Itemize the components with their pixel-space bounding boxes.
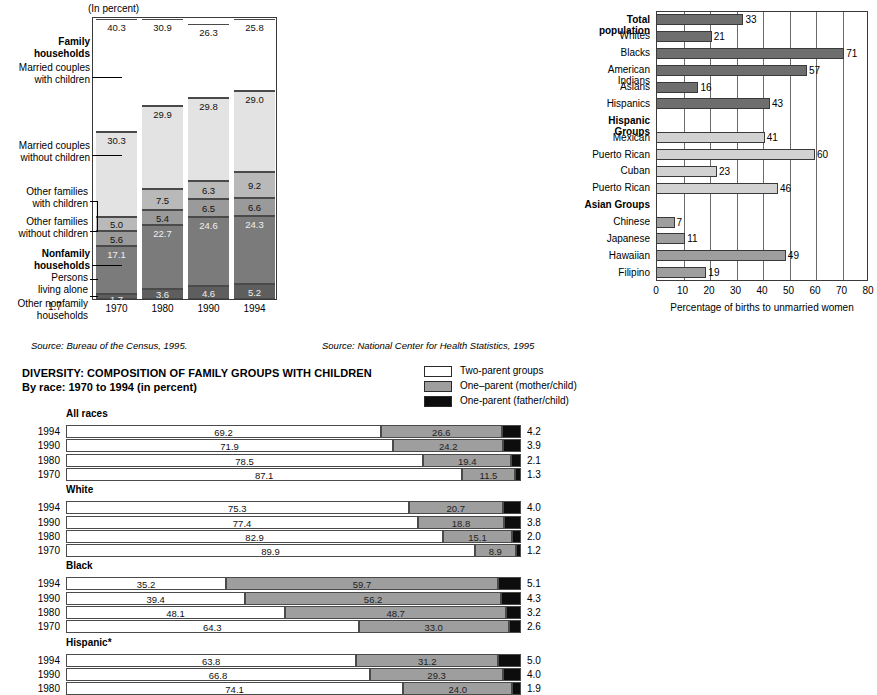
- label-line: Other nonfamily: [0, 298, 88, 310]
- segment-value: 29.3: [371, 670, 502, 681]
- table-row: 71.924.2: [66, 439, 521, 452]
- segment-value: 5.4: [142, 214, 183, 224]
- bottom-row-year: 1994: [22, 655, 60, 666]
- bottom-stack-segment: 39.4: [66, 592, 245, 605]
- right-chart-row-label: Puerto Rican: [577, 182, 653, 193]
- x-tick-30: 30: [727, 285, 745, 296]
- right-chart-bar-value: 11: [685, 233, 697, 244]
- segment-value: 48.7: [286, 608, 506, 619]
- right-chart-bar: [656, 233, 685, 244]
- right-chart-bar-value: 60: [815, 149, 828, 160]
- left-chart-year-label-1994: 1994: [234, 303, 275, 314]
- segment-value: 75.3: [67, 503, 408, 514]
- bottom-stack-segment: [502, 425, 521, 438]
- household-composition-chart: (In percent) 1.717.15.65.030.340.33.622.…: [0, 0, 290, 332]
- bottom-row-father-value: 2.0: [527, 531, 541, 542]
- stack-segment: 17.1: [96, 246, 137, 294]
- right-chart-bar-value: 16: [698, 82, 711, 93]
- x-tick-50: 50: [780, 285, 798, 296]
- label-line: with children: [0, 198, 88, 210]
- bottom-row-father-value: 3.9: [527, 440, 541, 451]
- bottom-row-year: 1994: [22, 578, 60, 589]
- source-right: Source: National Center for Health Stati…: [322, 340, 534, 351]
- right-chart-row-label: Mexican: [577, 132, 653, 143]
- segment-value: 31.2: [357, 656, 497, 667]
- right-chart-bar-value: 57: [807, 65, 820, 76]
- label-line: Other families: [0, 186, 88, 198]
- family-groups-composition-chart: DIVERSITY: COMPOSITION OF FAMILY GROUPS …: [0, 362, 579, 665]
- bottom-row-father-value: 4.0: [527, 669, 541, 680]
- x-tick-70: 70: [833, 285, 851, 296]
- right-chart-row-label: Japanese: [577, 233, 653, 244]
- segment-value: 25.8: [234, 23, 275, 33]
- bottom-stack-segment: [498, 654, 521, 667]
- segment-value: 77.4: [67, 518, 417, 529]
- right-chart-row-label: Cuban: [577, 165, 653, 176]
- segment-value: 6.6: [234, 203, 275, 213]
- stack-segment: 6.6: [234, 198, 275, 216]
- bottom-stack-segment: 33.0: [359, 620, 509, 633]
- left-chart-label-5: Nonfamilyhouseholds: [0, 248, 90, 271]
- bottom-stack-segment: [501, 592, 521, 605]
- bottom-row-father-value: 4.0: [527, 502, 541, 513]
- stack-segment: 6.3: [188, 181, 229, 199]
- right-chart-bar-value: 23: [717, 166, 730, 177]
- bottom-row-year: 1994: [22, 502, 60, 513]
- right-chart-bar-value: 21: [712, 31, 725, 42]
- segment-value: 3.6: [142, 290, 183, 300]
- bottom-title-line1: DIVERSITY: COMPOSITION OF FAMILY GROUPS …: [22, 367, 372, 379]
- left-chart-column-1980: 3.622.75.47.529.930.9: [142, 19, 183, 299]
- legend-swatch: [424, 396, 452, 407]
- stack-segment: 25.8: [234, 19, 275, 91]
- table-row: 69.226.6: [66, 425, 521, 438]
- segment-value: 22.7: [142, 229, 183, 239]
- right-chart-bar: [656, 132, 765, 143]
- stack-segment: 29.8: [188, 98, 229, 181]
- left-chart-label-2: Married coupleswithout children: [0, 140, 90, 163]
- bottom-stack-segment: [503, 668, 521, 681]
- x-tick-40: 40: [753, 285, 771, 296]
- bottom-row-father-value: 2.6: [527, 621, 541, 632]
- bottom-stack-segment: 24.0: [403, 682, 512, 695]
- segment-value: 89.9: [67, 546, 474, 557]
- table-row: 48.148.7: [66, 606, 521, 619]
- stack-segment: 30.3: [96, 132, 137, 217]
- segment-value: 11.5: [463, 470, 513, 481]
- segment-value: 4.6: [188, 289, 229, 299]
- segment-value: 19.4: [424, 456, 510, 467]
- leader-line: [92, 77, 122, 78]
- bottom-group-heading: All races: [66, 408, 108, 419]
- table-row: 35.259.7: [66, 577, 521, 590]
- bottom-stack-segment: 35.2: [66, 577, 226, 590]
- left-chart-year-label-1990: 1990: [188, 303, 229, 314]
- bottom-row-father-value: 5.1: [527, 578, 541, 589]
- label-line: Family: [0, 36, 90, 48]
- bottom-stack-segment: 69.2: [66, 425, 381, 438]
- segment-value: 78.5: [67, 456, 422, 467]
- table-row: 82.915.1: [66, 530, 521, 543]
- right-chart-bar: [656, 149, 815, 160]
- segment-value: 24.3: [234, 220, 275, 230]
- bottom-group-heading: Hispanic*: [66, 637, 112, 648]
- segment-value: 71.9: [67, 441, 392, 452]
- right-chart-row-label: Hawaiian: [577, 250, 653, 261]
- leader-line: [90, 231, 98, 232]
- table-row: 78.519.4: [66, 454, 521, 467]
- bottom-stack-segment: 29.3: [370, 668, 503, 681]
- segment-value: 24.6: [188, 221, 229, 231]
- bottom-stack-segment: 77.4: [66, 516, 418, 529]
- stack-segment: 24.3: [234, 216, 275, 284]
- left-chart-label-6: Personsliving alone: [0, 272, 88, 295]
- segment-value: 74.1: [67, 684, 402, 695]
- bottom-row-father-value: 2.1: [527, 455, 541, 466]
- bottom-stack-segment: [503, 501, 521, 514]
- left-chart-year-label-1980: 1980: [142, 303, 183, 314]
- bottom-row-father-value: 3.8: [527, 517, 541, 528]
- bottom-group-heading: White: [66, 484, 93, 495]
- stack-segment: 29.9: [142, 106, 183, 190]
- bottom-stack-segment: 87.1: [66, 468, 462, 481]
- left-chart-axis-right: [276, 17, 277, 300]
- bottom-stack-segment: 8.9: [475, 544, 515, 557]
- label-line: Other families: [0, 216, 88, 228]
- right-chart-bar: [656, 217, 675, 228]
